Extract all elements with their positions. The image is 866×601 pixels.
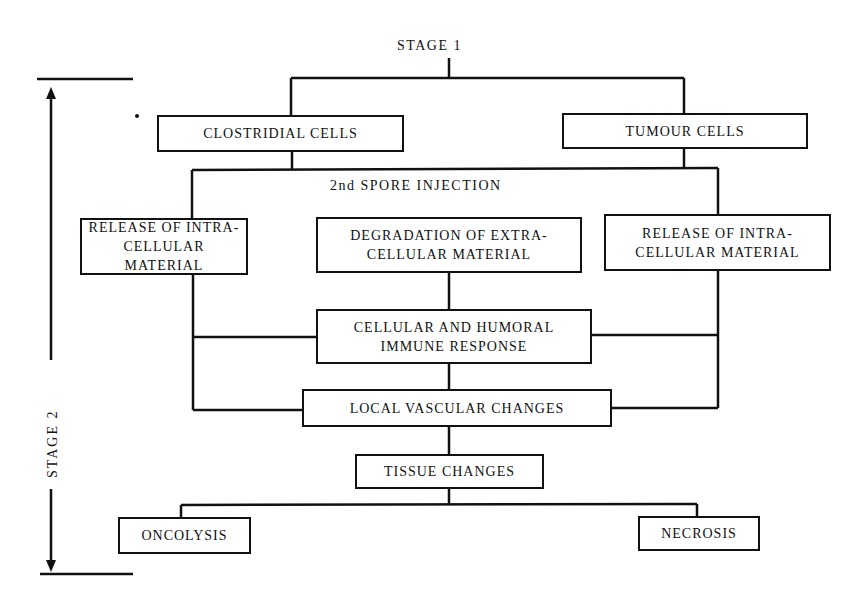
node-immune-response: CELLULAR AND HUMORAL IMMUNE RESPONSE <box>316 309 592 364</box>
node-oncolysis: ONCOLYSIS <box>118 517 251 554</box>
node-release-intracellular-left: RELEASE OF INTRA- CELLULAR MATERIAL <box>80 218 248 275</box>
ink-dot <box>135 114 139 118</box>
node-degradation-extracellular: DEGRADATION OF EXTRA- CELLULAR MATERIAL <box>316 217 582 273</box>
arrow-up-icon <box>46 87 56 99</box>
arrow-down-icon <box>46 560 56 572</box>
node-necrosis: NECROSIS <box>638 516 760 551</box>
connector-lines <box>0 0 866 601</box>
stage2-label: STAGE 2 <box>45 410 61 479</box>
node-tissue-changes: TISSUE CHANGES <box>355 454 544 489</box>
node-spore-injection: 2nd SPORE INJECTION <box>330 178 502 194</box>
node-release-intracellular-right: RELEASE OF INTRA- CELLULAR MATERIAL <box>604 214 831 271</box>
node-tumour-cells: TUMOUR CELLS <box>562 113 808 149</box>
stage1-label: STAGE 1 <box>397 38 462 54</box>
node-clostridial-cells: CLOSTRIDIAL CELLS <box>157 115 404 152</box>
spore-top-line <box>192 168 718 170</box>
node-local-vascular-changes: LOCAL VASCULAR CHANGES <box>302 389 612 427</box>
bottom-branch-line <box>181 504 697 505</box>
